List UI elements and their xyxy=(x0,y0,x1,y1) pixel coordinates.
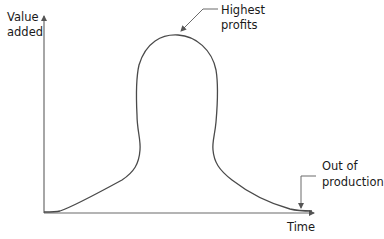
end-annotation-line1: Out of xyxy=(322,159,359,173)
y-axis-label-line2: added xyxy=(7,25,43,39)
end-leader-line xyxy=(301,176,316,208)
end-annotation-line2: production xyxy=(322,175,384,189)
peak-leader-line xyxy=(181,9,218,31)
peak-annotation-line1: Highest xyxy=(221,3,265,17)
x-axis-label: Time xyxy=(286,220,315,234)
y-axis-label-line1: Value xyxy=(7,10,39,24)
peak-annotation-line2: profits xyxy=(221,18,258,32)
value-added-diagram: Value added Time Highest profits Out of … xyxy=(0,0,384,239)
value-added-curve xyxy=(44,35,312,212)
